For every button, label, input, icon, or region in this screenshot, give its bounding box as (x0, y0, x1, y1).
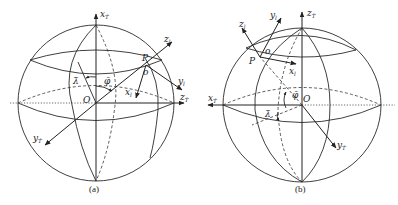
point-P-label-a: P (141, 53, 149, 63)
origin-label-b: O (303, 94, 311, 104)
x-axis-label-a: xT̄ (100, 9, 109, 20)
lambda-label-a: λ̄ (72, 76, 79, 86)
lambda-arc-a (86, 77, 96, 78)
x-axis-label-b: xT̄ (208, 93, 217, 104)
y-axis-a (45, 103, 96, 145)
caption-a: (a) (89, 184, 99, 194)
phi-label-b: φ̄ (292, 90, 299, 100)
local-z-label-b: zl (238, 19, 246, 30)
point-o-label-b: o (265, 46, 271, 56)
panel-b: zT̄ xT̄ yT̄ zl yl xl P o O λ̄ φ̄ (b) (208, 8, 395, 194)
phi-arc-a (96, 86, 112, 91)
z-axis-label-a: zT̄ (179, 92, 189, 103)
local-x-label-b: xl (289, 66, 296, 77)
panel-a: xT̄ zT̄ yT̄ zl yl xl P o O λ̄ φ̄ (a) (10, 9, 189, 194)
z-axis-label-b: zT̄ (306, 8, 316, 19)
point-o-label-a: o (143, 67, 149, 77)
sphere-coordinate-diagram: xT̄ zT̄ yT̄ zl yl xl P o O λ̄ φ̄ (a) (0, 0, 398, 205)
caption-b: (b) (295, 184, 306, 194)
y-axis-label-b: yT̄ (336, 140, 346, 151)
y-axis-label-a: yT̄ (32, 133, 42, 144)
y-axis-b (302, 105, 336, 148)
local-x-axis-b (260, 57, 296, 64)
local-z-axis-b (242, 28, 260, 57)
local-y-label-a: yl (177, 76, 185, 87)
local-z-label-a: zl (163, 34, 171, 45)
origin-label-a: O (83, 95, 91, 105)
local-y-axis-a (146, 65, 182, 90)
phi-label-a: φ̄ (104, 76, 111, 86)
lambda-label-b: λ̄ (264, 109, 271, 119)
phi-arc-b (284, 92, 286, 108)
local-y-label-b: yl (269, 10, 277, 21)
point-P-label-b: P (248, 56, 256, 66)
